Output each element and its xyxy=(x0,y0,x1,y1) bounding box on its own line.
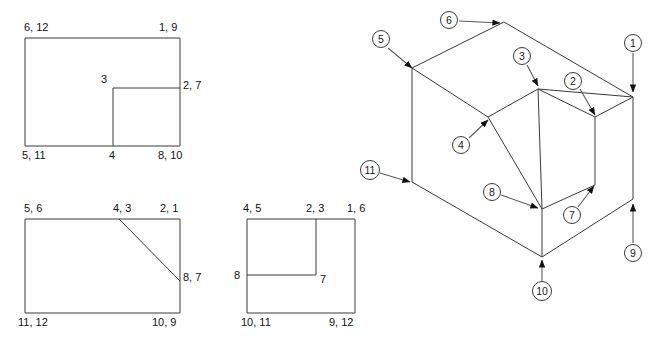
callout-leader-11 xyxy=(380,173,410,182)
top-view-label: 1, 9 xyxy=(159,22,177,33)
top-view-label: 8, 10 xyxy=(158,150,182,161)
side-view-label: 8 xyxy=(234,270,240,281)
side-view-label: 1, 6 xyxy=(347,203,365,214)
callout-bubble-11[interactable]: 11 xyxy=(360,160,380,180)
callout-bubble-8[interactable]: 8 xyxy=(483,183,501,201)
drawing-canvas: 1234567891011 6, 121, 932, 75, 1148, 105… xyxy=(0,0,666,348)
callout-bubble-3[interactable]: 3 xyxy=(513,47,531,65)
front-view-label: 8, 7 xyxy=(183,272,201,283)
callout-bubble-1[interactable]: 1 xyxy=(624,34,642,52)
top-view-label: 5, 11 xyxy=(22,150,46,161)
callout-leader-6 xyxy=(459,21,500,23)
side-view-label: 9, 12 xyxy=(329,317,353,328)
side-view-label: 7 xyxy=(320,274,326,285)
side-view-label: 10, 11 xyxy=(241,317,271,328)
callout-number: 9 xyxy=(630,247,636,259)
front-view-label: 2, 1 xyxy=(160,203,178,214)
callout-number: 2 xyxy=(570,75,576,87)
front-view-label: 4, 3 xyxy=(113,203,131,214)
top-view-label: 3 xyxy=(101,74,107,85)
top-view-outline xyxy=(25,38,180,146)
callout-number: 8 xyxy=(489,186,495,198)
callout-number: 1 xyxy=(630,37,636,49)
callout-leader-8 xyxy=(501,195,538,208)
callout-number: 4 xyxy=(458,139,464,151)
callout-bubble-10[interactable]: 10 xyxy=(532,281,552,301)
callout-number: 5 xyxy=(378,33,384,45)
top-view-label: 6, 12 xyxy=(24,22,48,33)
side-view-outline xyxy=(247,219,355,313)
top-view-label: 2, 7 xyxy=(183,80,201,91)
callout-leader-5 xyxy=(388,48,412,68)
top-view-label: 4 xyxy=(109,150,115,161)
side-view-label: 2, 3 xyxy=(306,203,324,214)
drawing-vector-layer xyxy=(0,0,666,348)
callout-bubble-7[interactable]: 7 xyxy=(563,206,581,224)
callout-number: 11 xyxy=(365,164,376,176)
callout-bubble-6[interactable]: 6 xyxy=(440,11,458,29)
front-view-label: 5, 6 xyxy=(24,203,42,214)
front-view-label: 11, 12 xyxy=(18,317,48,328)
callout-bubble-9[interactable]: 9 xyxy=(624,244,642,262)
callout-number: 10 xyxy=(536,285,548,297)
front-view-label: 10, 9 xyxy=(152,317,176,328)
callout-bubble-2[interactable]: 2 xyxy=(564,72,582,90)
callout-bubble-5[interactable]: 5 xyxy=(372,30,390,48)
callout-bubble-4[interactable]: 4 xyxy=(452,136,470,154)
callout-leader-4 xyxy=(469,120,488,138)
callout-number: 7 xyxy=(569,209,575,221)
callout-number: 3 xyxy=(519,50,525,62)
front-view-outline xyxy=(25,219,180,313)
callout-number: 6 xyxy=(446,14,452,26)
side-view-label: 4, 5 xyxy=(243,203,261,214)
callout-leader-3 xyxy=(527,65,538,86)
